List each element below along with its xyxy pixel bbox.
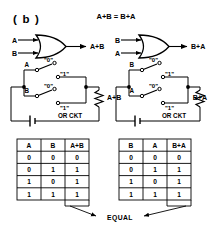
ttl-r0-c0: 0	[27, 154, 31, 161]
ttr-r0-c2: 0	[177, 154, 181, 161]
switch-b-right-label: B	[129, 61, 134, 68]
ttl-r1-c2: 1	[75, 166, 79, 173]
circuit-left-caption: OR CKT	[58, 112, 82, 119]
circuit-right-output-dot	[186, 85, 190, 89]
circuit-right-output-label: B+A	[193, 94, 207, 101]
or-gate-right-input-bottom-label: A	[115, 50, 120, 57]
switch-a-label: A	[24, 61, 29, 68]
figure-commutative-law-or: ( b ) A+B = B+A A B A+B B A B+A	[0, 0, 213, 235]
ttl-r2-c1: 0	[51, 178, 55, 185]
or-gate-left-input-bottom-label: B	[12, 50, 17, 57]
switch-b-right-contact-0-label: "0"	[149, 57, 158, 63]
or-gate-right-input-top-label: B	[115, 37, 120, 44]
switch-b-contact-0-label: "0"	[44, 83, 53, 89]
ttr-r2-c2: 1	[177, 178, 181, 185]
switch-b-right-contact-0[interactable]	[158, 61, 161, 64]
switch-b-contact-0[interactable]	[53, 87, 56, 90]
or-gate-left-output-label: A+B	[90, 43, 104, 50]
switch-b-label: B	[24, 87, 29, 94]
equation-label: A+B = B+A	[97, 12, 137, 21]
ttr-r2-c0: 1	[129, 178, 133, 185]
switch-b-right-pivot[interactable]	[140, 68, 143, 71]
ttr-r3-c2: 1	[177, 191, 181, 198]
ttl-header-2: A+B	[70, 142, 84, 149]
ttl-r3-c0: 1	[27, 191, 31, 198]
ttl-r0-c1: 0	[51, 154, 55, 161]
switch-b-right-contact-1-label: "1"	[165, 71, 174, 77]
ttl-r1-c0: 0	[27, 166, 31, 173]
ttr-r2-c1: 0	[153, 178, 157, 185]
ttl-r2-c2: 1	[75, 178, 79, 185]
ttl-r1-c1: 1	[51, 166, 55, 173]
ttl-header-1: B	[51, 142, 56, 149]
ttl-r2-c0: 1	[27, 178, 31, 185]
or-gate-left-input-top-label: A	[12, 37, 17, 44]
switch-a-right-contact-0[interactable]	[158, 87, 161, 90]
switch-a-right-label: A	[129, 87, 134, 94]
switch-a-right-pivot[interactable]	[140, 94, 143, 97]
equal-label: EQUAL	[107, 214, 133, 222]
ttr-header-2: B+A	[172, 142, 186, 149]
or-gate-right-output-label: B+A	[191, 43, 205, 50]
circuit-left-output-label: A+B	[107, 94, 121, 101]
ttr-r1-c2: 1	[177, 166, 181, 173]
circuit-right-caption: OR CKT	[162, 112, 186, 119]
circuit-left-output-dot	[84, 85, 88, 89]
ttr-r0-c1: 0	[153, 154, 157, 161]
switch-b-pivot[interactable]	[35, 94, 38, 97]
ttr-header-1: A	[153, 142, 158, 149]
ttr-r3-c1: 1	[153, 191, 157, 198]
ttl-r0-c2: 0	[75, 154, 79, 161]
ttl-r3-c2: 1	[75, 191, 79, 198]
ttr-r0-c0: 0	[129, 154, 133, 161]
ttr-r3-c0: 1	[129, 191, 133, 198]
ttr-r1-c0: 0	[129, 166, 133, 173]
switch-a-contact-1-label: "1"	[60, 71, 69, 77]
ttr-r1-c1: 1	[153, 166, 157, 173]
ttl-header-0: A	[27, 142, 32, 149]
panel-label: ( b )	[13, 13, 40, 25]
switch-a-contact-0-label: "0"	[44, 57, 53, 63]
ttl-r3-c1: 1	[51, 191, 55, 198]
switch-a-right-contact-0-label: "0"	[149, 83, 158, 89]
switch-a-pivot[interactable]	[35, 68, 38, 71]
switch-a-contact-0[interactable]	[53, 61, 56, 64]
switch-a-right-contact-1-label: "1"	[165, 105, 174, 111]
switch-b-contact-1-label: "1"	[60, 105, 69, 111]
ttr-header-0: B	[129, 142, 134, 149]
